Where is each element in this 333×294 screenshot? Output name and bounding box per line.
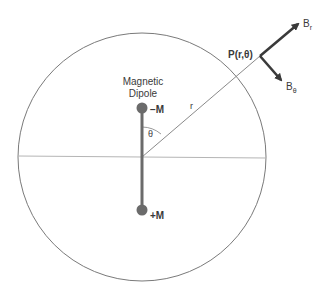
br-label: Br: [303, 18, 313, 31]
positive-pole-label: +M: [150, 210, 164, 221]
negative-pole-label: −M: [150, 104, 164, 115]
theta-label: θ: [148, 129, 153, 139]
point-p-label: P(r,θ): [228, 49, 253, 60]
negative-pole: [137, 103, 148, 114]
dipole-label-line1: Magnetic: [123, 76, 164, 87]
positive-pole: [137, 205, 148, 216]
radius-label: r: [190, 101, 193, 111]
dipole-label-line2: Dipole: [129, 88, 158, 99]
btheta-arrow: [260, 56, 281, 80]
dipole-diagram: Magnetic Dipole −M +M θ r P(r,θ) Br Bθ: [0, 0, 333, 294]
btheta-label: Bθ: [286, 81, 297, 94]
br-arrow: [260, 24, 298, 56]
